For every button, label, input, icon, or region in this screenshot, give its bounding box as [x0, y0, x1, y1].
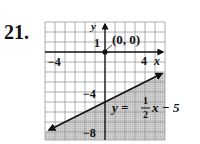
- graph: (0, 0) y 1 −4 4 x −4 −8 y = 1 2 x − 5: [0, 0, 200, 144]
- tick-y-1: 1: [94, 36, 100, 50]
- tick-x-4: 4: [141, 54, 147, 68]
- tick-x-neg4: −4: [48, 55, 61, 69]
- y-axis-label: y: [89, 20, 96, 32]
- tick-y-neg8: −8: [83, 126, 96, 140]
- equation-denominator: 2: [143, 109, 148, 120]
- equation-lhs: y =: [110, 100, 128, 115]
- point-label: (0, 0): [112, 32, 140, 47]
- equation-rhs: x − 5: [151, 100, 180, 115]
- x-axis-label: x: [153, 54, 160, 68]
- tick-y-neg4: −4: [83, 87, 96, 101]
- equation-numerator: 1: [143, 95, 148, 106]
- test-point: [102, 49, 107, 54]
